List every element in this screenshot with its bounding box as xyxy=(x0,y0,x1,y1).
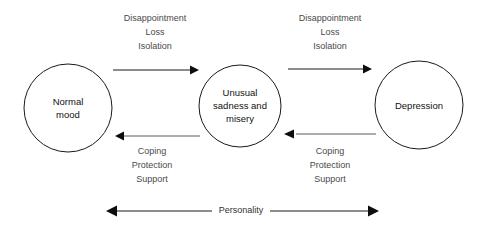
depression-label-line1: Depression xyxy=(395,100,443,111)
edge-sadness-to-normal: Coping Protection Support xyxy=(115,132,200,185)
edge-depression-to-sadness-label-line3: Support xyxy=(314,174,346,184)
diagram-canvas: Normal mood Unusual sadness and misery D… xyxy=(0,0,481,235)
edge-sadness-to-depression-arrowhead xyxy=(363,65,372,74)
edge-sadness-to-normal-label-line1: Coping xyxy=(138,146,167,156)
edge-depression-to-sadness-label-line1: Coping xyxy=(316,146,345,156)
normal-mood-label-line2: mood xyxy=(56,109,80,120)
personality-axis: Personality xyxy=(106,205,379,216)
edge-sadness-to-depression-label-line2: Loss xyxy=(320,27,340,37)
normal-mood-label-line1: Normal xyxy=(53,96,84,107)
node-normal-mood[interactable]: Normal mood xyxy=(24,64,112,152)
unusual-sadness-label-line3: misery xyxy=(226,113,254,124)
edge-normal-to-sadness-label-line1: Disappointment xyxy=(124,13,187,23)
node-unusual-sadness[interactable]: Unusual sadness and misery xyxy=(199,65,281,147)
edge-depression-to-sadness-label-line2: Protection xyxy=(310,160,351,170)
edge-sadness-to-normal-label-line2: Protection xyxy=(132,160,173,170)
edge-depression-to-sadness-arrowhead xyxy=(284,130,294,139)
edge-normal-to-sadness-arrowhead xyxy=(190,66,199,75)
edge-sadness-to-depression: Disappointment Loss Isolation xyxy=(288,13,372,73)
unusual-sadness-label-line2: sadness and xyxy=(213,100,267,111)
edge-sadness-to-normal-arrowhead xyxy=(115,132,124,141)
edge-depression-to-sadness: Coping Protection Support xyxy=(284,130,376,185)
node-depression[interactable]: Depression xyxy=(375,61,463,149)
edge-normal-to-sadness-label-line2: Loss xyxy=(145,27,165,37)
personality-axis-arrowhead-left xyxy=(106,206,117,217)
edge-sadness-to-normal-label-line3: Support xyxy=(136,174,168,184)
personality-axis-label: Personality xyxy=(219,205,264,215)
edge-normal-to-sadness-label-line3: Isolation xyxy=(138,41,172,51)
edge-sadness-to-depression-label-line3: Isolation xyxy=(313,41,347,51)
mood-depression-flow-diagram: Normal mood Unusual sadness and misery D… xyxy=(0,0,481,235)
unusual-sadness-label-line1: Unusual xyxy=(223,87,258,98)
edge-normal-to-sadness: Disappointment Loss Isolation xyxy=(113,13,199,74)
personality-axis-arrowhead-right xyxy=(368,206,379,217)
edge-sadness-to-depression-label-line1: Disappointment xyxy=(299,13,362,23)
